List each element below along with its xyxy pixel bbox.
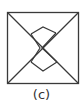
figure-label: (c) [0,87,83,102]
inner-left-waist [31,34,40,62]
inner-lower-base [31,62,57,71]
inner-upper-roof [31,27,56,34]
